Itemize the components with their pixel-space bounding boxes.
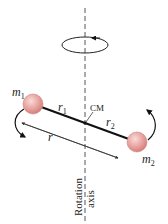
label-r1: r1 xyxy=(58,100,67,116)
mass-m1 xyxy=(23,94,43,114)
cm-leader-line xyxy=(86,112,93,122)
rotation-arrow-m1-icon xyxy=(15,109,25,137)
label-rotation: Rotation xyxy=(72,178,84,216)
label-r2: r2 xyxy=(106,115,115,131)
rotation-diagram: m1 r1 CM r2 m2 r Rotation axis xyxy=(0,0,168,224)
label-m2: m2 xyxy=(142,152,155,168)
label-m1: m1 xyxy=(12,85,25,101)
label-axis: axis xyxy=(84,190,96,208)
distance-arrow-r xyxy=(22,123,118,158)
label-cm: CM xyxy=(90,103,104,113)
label-r: r xyxy=(48,130,53,144)
mass-m2 xyxy=(127,132,147,152)
rotation-arrow-m2-icon xyxy=(147,110,155,140)
